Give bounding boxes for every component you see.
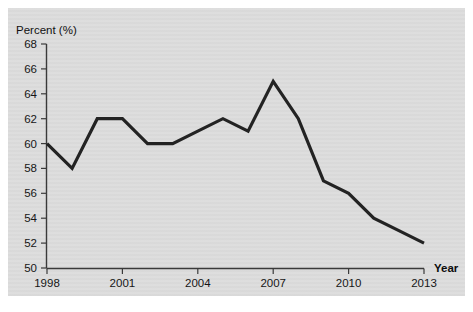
- x-tick-label: 2007: [260, 277, 286, 289]
- x-tick-label: 2004: [185, 277, 211, 289]
- chart-figure: 50 52 54 56 58 60 62 64 66 68 1998 2001 …: [0, 0, 473, 312]
- x-tick-label: 2001: [110, 277, 136, 289]
- y-axis-title: Percent (%): [16, 24, 77, 36]
- y-tick-label: 56: [24, 187, 37, 199]
- x-tick-label: 2013: [411, 277, 437, 289]
- y-tick-label: 52: [24, 237, 37, 249]
- y-tick-label: 66: [24, 63, 37, 75]
- y-tick-label: 50: [24, 262, 37, 274]
- x-tick-label: 1998: [34, 277, 60, 289]
- data-series-line: [47, 81, 424, 243]
- x-axis-title: Year: [434, 262, 459, 274]
- x-axis-ticks: [47, 269, 424, 275]
- y-tick-label: 60: [24, 138, 37, 150]
- x-axis-tick-labels: 1998 2001 2004 2007 2010 2013: [34, 277, 437, 289]
- y-axis-ticks: [41, 44, 47, 268]
- x-tick-label: 2010: [336, 277, 362, 289]
- y-tick-label: 64: [24, 88, 37, 100]
- line-chart-plot: 50 52 54 56 58 60 62 64 66 68 1998 2001 …: [0, 0, 473, 312]
- y-tick-label: 68: [24, 38, 37, 50]
- y-tick-label: 62: [24, 113, 37, 125]
- y-axis-tick-labels: 50 52 54 56 58 60 62 64 66 68: [24, 38, 37, 274]
- y-tick-label: 58: [24, 162, 37, 174]
- y-tick-label: 54: [24, 212, 37, 224]
